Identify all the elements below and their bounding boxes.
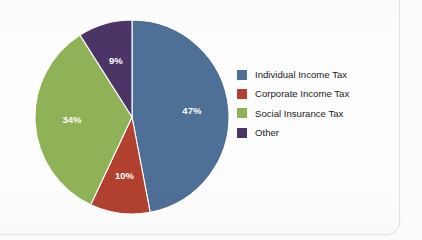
scanned-page: Taxation and S in th Taxes of th fund go… [0,0,422,240]
pie-slice-value-label: 10% [115,170,135,181]
legend-item-label: Corporate Income Tax [255,88,349,99]
legend-item[interactable]: Individual Income Tax [237,69,349,80]
pie-slice-value-label: 47% [182,105,202,116]
pie-slice-value-label: 34% [62,114,82,125]
legend-swatch-icon [237,70,247,80]
legend-item-label: Social Insurance Tax [255,108,343,119]
legend-swatch-icon [237,108,247,118]
legend-item[interactable]: Social Insurance Tax [237,108,349,119]
figure-card: 47%10%34%9% Individual Income TaxCorpora… [0,0,400,235]
pie-slice-value-label: 9% [109,55,123,66]
pie-chart: 47%10%34%9% [34,19,230,215]
chart-legend: Individual Income TaxCorporate Income Ta… [237,69,349,138]
legend-swatch-icon [237,89,247,99]
pie-slice[interactable] [132,20,229,212]
legend-item[interactable]: Other [237,127,349,138]
legend-item-label: Other [255,127,279,138]
legend-item[interactable]: Corporate Income Tax [237,88,349,99]
legend-swatch-icon [237,128,247,138]
pie-chart-svg: 47%10%34%9% [34,19,230,215]
legend-item-label: Individual Income Tax [255,69,347,80]
